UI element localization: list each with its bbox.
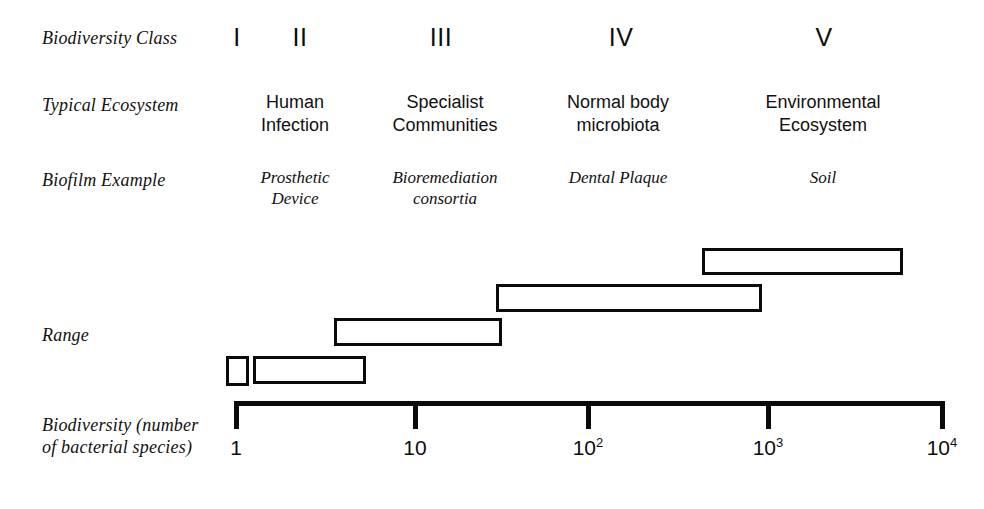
ecosystem-ii: Human Infection <box>261 91 329 137</box>
biodiversity-class-figure: Biodiversity Class Typical Ecosystem Bio… <box>0 0 984 509</box>
range-bar-ii <box>253 356 366 384</box>
axis-tick-label-1000: 103 <box>753 436 784 460</box>
ecosystem-iii: Specialist Communities <box>392 91 497 137</box>
axis-tick-label-100: 102 <box>573 436 604 460</box>
biofilm-example-iv: Dental Plaque <box>569 167 668 188</box>
class-numeral-i: I <box>233 23 240 52</box>
row-label-typical-ecosystem: Typical Ecosystem <box>42 95 179 117</box>
row-label-biodiversity-class: Biodiversity Class <box>42 28 177 50</box>
axis-tick-1 <box>234 401 239 429</box>
axis-tick-100 <box>586 401 591 429</box>
class-numeral-iii: III <box>430 23 452 52</box>
axis-tick-1000 <box>766 401 771 429</box>
range-bar-iii <box>334 318 502 346</box>
range-bar-iv <box>496 284 762 312</box>
range-bar-v <box>702 248 903 275</box>
class-numeral-ii: II <box>293 23 308 52</box>
row-label-biofilm-example: Biofilm Example <box>42 170 165 192</box>
biofilm-example-iii: Bioremediation consortia <box>392 167 497 210</box>
axis-tick-10 <box>413 401 418 429</box>
axis-tick-10000 <box>940 401 945 429</box>
row-label-range: Range <box>42 325 89 347</box>
range-bar-i <box>226 356 249 386</box>
ecosystem-iv: Normal body microbiota <box>567 91 669 137</box>
class-numeral-iv: IV <box>609 23 634 52</box>
row-label-biodiversity-axis: Biodiversity (number of bacterial specie… <box>42 415 198 459</box>
biofilm-example-ii: Prosthetic Device <box>260 167 329 210</box>
class-numeral-v: V <box>815 23 832 52</box>
biofilm-example-v: Soil <box>810 167 836 188</box>
axis-tick-label-10000: 104 <box>927 436 958 460</box>
ecosystem-v: Environmental Ecosystem <box>765 91 880 137</box>
axis-tick-label-10: 10 <box>403 436 426 460</box>
axis-tick-label-1: 1 <box>230 436 242 460</box>
